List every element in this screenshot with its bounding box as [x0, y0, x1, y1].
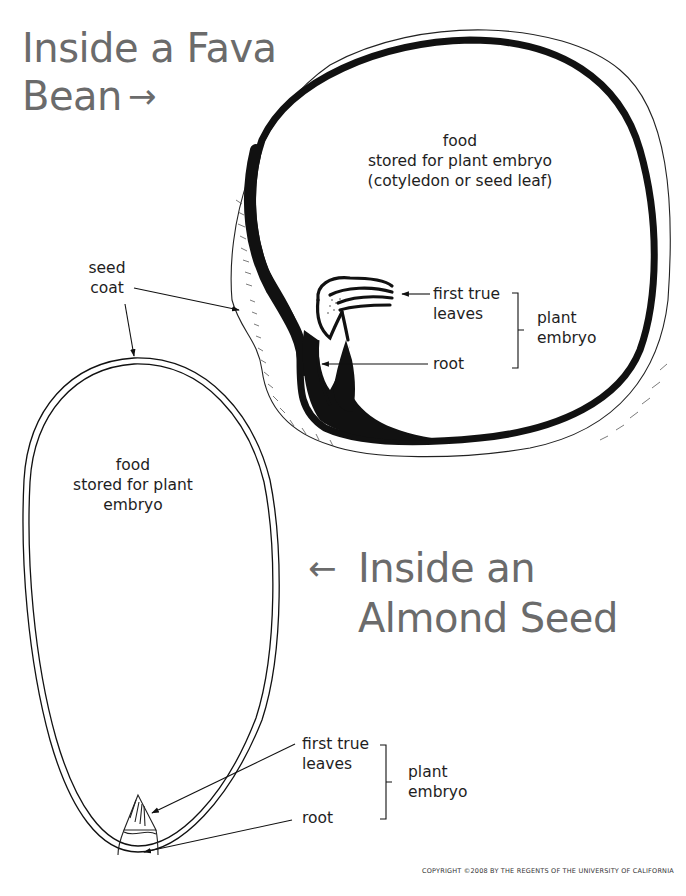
- fava-root-shape: [334, 340, 355, 412]
- fava-root-label: root: [433, 354, 464, 374]
- arrow-left-icon: ←: [308, 548, 337, 588]
- fava-first-true-leaves-label: first true leaves: [433, 284, 500, 324]
- almond-title-line2: Almond Seed: [358, 598, 618, 648]
- fava-embryo-bracket: [512, 293, 524, 368]
- almond-food-label: food stored for plant embryo: [58, 455, 208, 515]
- almond-first-true-leaves-label: first true leaves: [302, 734, 369, 774]
- fava-food-label: food stored for plant embryo (cotyledon …: [340, 131, 580, 191]
- almond-embryo-bracket: [380, 745, 392, 819]
- fava-embryo: [318, 278, 393, 340]
- seed-coat-arrow-to-almond: [125, 304, 134, 356]
- fava-title-line1: Inside a Fava: [22, 28, 277, 76]
- fava-title: Inside a Fava Bean→: [22, 28, 277, 124]
- almond-seed-coat-outer: [23, 358, 279, 852]
- almond-leaves-arrow: [152, 744, 295, 813]
- copyright-notice: COPYRIGHT ©2008 BY THE REGENTS OF THE UN…: [422, 867, 674, 875]
- almond-title: Inside an Almond Seed: [358, 548, 618, 648]
- fava-title-line2: Bean: [22, 73, 122, 119]
- seed-coat-label: seed coat: [82, 258, 132, 298]
- fava-bean-illustration: [231, 30, 670, 457]
- almond-root-label: root: [302, 808, 333, 828]
- fava-plant-embryo-label: plant embryo: [537, 308, 597, 348]
- seed-coat-arrow-to-fava: [134, 288, 239, 310]
- arrow-right-icon: →: [128, 79, 156, 113]
- almond-root-arrow: [144, 820, 292, 852]
- almond-title-line1: Inside an: [358, 548, 618, 598]
- almond-plant-embryo-label: plant embryo: [408, 762, 468, 802]
